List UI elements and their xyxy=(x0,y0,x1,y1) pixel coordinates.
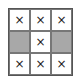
tic-grid: × × × × × × × xyxy=(8,8,73,76)
cell-r2-c3-shaded xyxy=(51,31,72,53)
cell-r1-c3: × xyxy=(51,9,72,31)
x-mark-icon: × xyxy=(56,58,66,70)
cell-r3-c3: × xyxy=(51,53,72,75)
x-mark-icon: × xyxy=(56,14,66,26)
x-mark-icon: × xyxy=(14,58,24,70)
cell-r1-c2: × xyxy=(30,9,51,31)
x-mark-icon: × xyxy=(35,58,45,70)
cell-r3-c1: × xyxy=(9,53,30,75)
cell-r2-c1-shaded xyxy=(9,31,30,53)
x-mark-icon: × xyxy=(35,36,45,48)
x-mark-icon: × xyxy=(14,14,24,26)
x-mark-icon: × xyxy=(35,14,45,26)
cell-r3-c2: × xyxy=(30,53,51,75)
cell-r2-c2: × xyxy=(30,31,51,53)
cell-r1-c1: × xyxy=(9,9,30,31)
